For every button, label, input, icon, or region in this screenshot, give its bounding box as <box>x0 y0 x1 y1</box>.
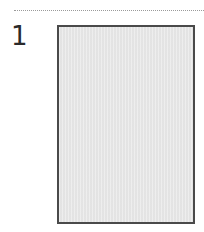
image-placeholder <box>57 25 195 224</box>
dotted-divider <box>14 10 204 11</box>
step-number: 1 <box>11 22 28 50</box>
document-page: 1 <box>0 0 204 232</box>
